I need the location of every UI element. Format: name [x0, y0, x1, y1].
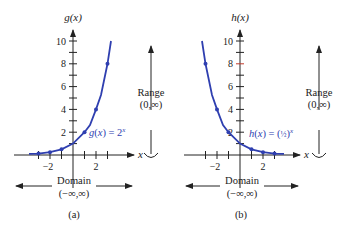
y-axis-label-b: h(x): [231, 11, 249, 24]
svg-text:4: 4: [228, 104, 233, 115]
svg-text:10: 10: [56, 36, 66, 47]
svg-text:−2: −2: [210, 161, 221, 172]
x-tick-labels-b: −2 2: [210, 161, 266, 172]
panel-a: 2 4 6 8 10 −2 2 g(x) x g(x) = 2x: [14, 11, 165, 221]
domain-interval-a: (−∞,∞): [59, 188, 90, 200]
domain-interval-b: (−∞,∞): [227, 188, 258, 200]
y-tick-labels-a: 2 4 6 8 10: [56, 36, 66, 138]
x-axis-label-a: x: [137, 148, 143, 160]
panel-label-a: (a): [68, 209, 80, 221]
y-tick-labels-b: 2 4 6 8 10: [223, 36, 233, 138]
range-label-a: Range: [138, 87, 165, 98]
svg-text:6: 6: [228, 81, 233, 92]
domain-label-a: Domain: [57, 175, 92, 186]
x-axis-label-b: x: [303, 148, 309, 160]
panel-label-b: (b): [235, 209, 248, 221]
panel-b: 2 4 6 8 10 −2 2 h(x) x h(x) = (½)x Range: [184, 11, 333, 221]
svg-text:2: 2: [261, 161, 266, 172]
range-interval-a: (0,∞): [140, 99, 163, 111]
range-interval-b: (0,∞): [308, 99, 331, 111]
function-label-a: g(x) = 2x: [89, 126, 126, 139]
svg-text:6: 6: [61, 81, 66, 92]
svg-text:2: 2: [94, 161, 99, 172]
figure: 2 4 6 8 10 −2 2 g(x) x g(x) = 2x: [0, 0, 343, 234]
svg-text:10: 10: [223, 36, 233, 47]
svg-text:−2: −2: [43, 161, 54, 172]
svg-text:4: 4: [61, 104, 66, 115]
svg-text:2: 2: [61, 127, 66, 138]
svg-text:8: 8: [228, 58, 233, 69]
function-label-b: h(x) = (½)x: [249, 127, 294, 140]
range-label-b: Range: [306, 87, 333, 98]
domain-label-b: Domain: [225, 175, 260, 186]
y-axis-label-a: g(x): [64, 11, 82, 24]
svg-text:8: 8: [61, 58, 66, 69]
x-tick-labels-a: −2 2: [43, 161, 99, 172]
